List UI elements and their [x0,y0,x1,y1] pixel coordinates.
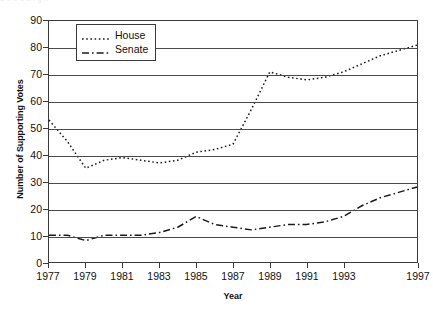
gridline [49,237,417,238]
x-axis-tick [159,263,160,268]
legend-label: House [115,29,145,41]
legend-item-house: House [82,28,148,42]
gridline [49,156,417,157]
x-axis-tick [122,263,123,268]
y-axis-tick-label: 20 [22,204,42,214]
chart-figure: a b c d e f g h Number of Supporting Vot… [0,0,433,320]
x-axis-tick [418,263,419,268]
y-axis-tick-label: 30 [22,177,42,187]
x-axis-tick-label: 1991 [295,270,318,282]
x-axis-tick-label: 1997 [406,270,429,282]
x-axis-tick-label: 1979 [73,270,96,282]
legend-swatch-senate-icon [82,44,110,54]
y-axis-tick-label: 80 [22,42,42,52]
x-axis-ticks [48,263,418,269]
y-axis-tick-label: 10 [22,231,42,241]
x-axis-tick-label: 1989 [258,270,281,282]
scan-artifact: a b c d e f g h [0,0,433,10]
gridline [49,75,417,76]
x-axis-tick [48,263,49,268]
x-axis-tick-label: 1981 [110,270,133,282]
x-axis-tick-labels: 1977197919811983198519871989199119931997 [0,270,433,284]
gridline [49,102,417,103]
x-axis-tick-label: 1977 [36,270,59,282]
x-axis-tick [85,263,86,268]
series-line-house [49,45,417,168]
x-axis-tick-label: 1993 [332,270,355,282]
y-axis-tick-label: 70 [22,69,42,79]
legend-label: Senate [115,43,148,55]
y-axis-tick-label: 0 [22,258,42,268]
x-axis-tick [196,263,197,268]
x-axis-tick [270,263,271,268]
y-axis-tick-label: 90 [22,15,42,25]
gridline [49,183,417,184]
x-axis-tick-label: 1987 [221,270,244,282]
y-axis-tick-label: 60 [22,96,42,106]
chart-legend: HouseSenate [76,24,156,61]
gridline [49,129,417,130]
legend-swatch-house-icon [82,30,110,40]
y-axis-tick-label: 50 [22,123,42,133]
legend-item-senate: Senate [82,42,148,56]
x-axis-tick [233,263,234,268]
x-axis-tick-label: 1985 [184,270,207,282]
y-axis-tick-label: 40 [22,150,42,160]
series-line-senate [49,187,417,241]
gridline [49,210,417,211]
x-axis-tick [307,263,308,268]
x-axis-title: Year [48,291,418,301]
x-axis-tick [344,263,345,268]
x-axis-tick-label: 1983 [147,270,170,282]
